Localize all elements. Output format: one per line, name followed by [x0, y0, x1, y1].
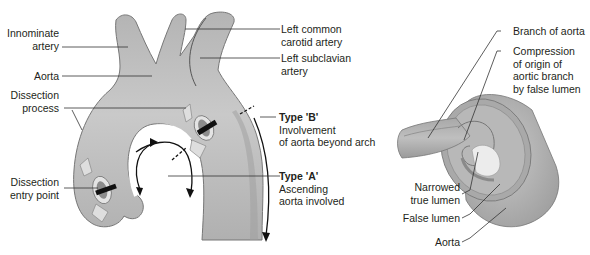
label-aorta-right: Aorta	[380, 236, 460, 249]
label-line: artery	[0, 40, 59, 53]
type-a-title: Type 'A'	[279, 170, 318, 182]
label-line: Left subclavian	[281, 52, 351, 65]
label-type-b: Type 'B' Involvement of aorta beyond arc…	[279, 111, 375, 149]
label-line: Dissection	[0, 89, 59, 102]
label-line: of origin of	[513, 58, 581, 71]
label-line: Involvement	[279, 124, 375, 137]
label-line: Compression	[513, 45, 581, 58]
label-line: Dissection	[0, 176, 59, 189]
label-innominate-artery: Innominate artery	[0, 27, 59, 52]
label-line: process	[0, 102, 59, 115]
label-dissection-process: Dissection process	[0, 89, 59, 114]
label-narrowed-true-lumen: Narrowed true lumen	[380, 181, 460, 206]
label-type-a: Type 'A' Ascending aorta involved	[279, 170, 344, 208]
label-false-lumen: False lumen	[380, 212, 460, 225]
label-line: carotid artery	[281, 36, 342, 49]
label-left-common-carotid-artery: Left common carotid artery	[281, 23, 342, 48]
aortic-arch	[74, 12, 263, 240]
type-a-arrows	[136, 138, 194, 198]
label-dissection-entry-point: Dissection entry point	[0, 176, 59, 201]
label-line: aortic branch	[513, 70, 581, 83]
label-line: by false lumen	[513, 83, 581, 96]
label-aorta: Aorta	[0, 70, 59, 83]
label-line: entry point	[0, 189, 59, 202]
label-line: Innominate	[0, 27, 59, 40]
label-left-subclavian-artery: Left subclavian artery	[281, 52, 351, 77]
type-b-title: Type 'B'	[279, 111, 318, 123]
label-line: Left common	[281, 23, 342, 36]
label-line: true lumen	[380, 194, 460, 207]
label-branch-of-aorta: Branch of aorta	[513, 25, 585, 38]
figure: Innominate artery Aorta Dissection proce…	[0, 0, 590, 255]
label-line: of aorta beyond arch	[279, 136, 375, 149]
label-compression: Compression of origin of aortic branch b…	[513, 45, 581, 95]
label-line: artery	[281, 65, 351, 78]
label-line: Ascending	[279, 183, 344, 196]
label-line: Narrowed	[380, 181, 460, 194]
label-line: aorta involved	[279, 195, 344, 208]
